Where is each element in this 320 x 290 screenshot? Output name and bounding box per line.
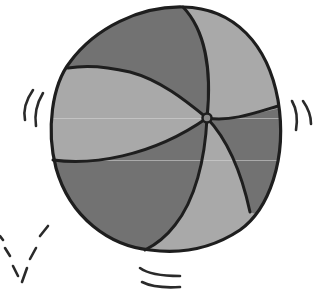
motion-lines-bottom [140,268,180,287]
motion-lines-right [292,101,311,130]
valve-hub-icon [203,114,212,123]
motion-dashes-bottom-left [0,226,48,282]
motion-lines-left [24,90,43,126]
beach-ball-illustration [0,0,320,290]
